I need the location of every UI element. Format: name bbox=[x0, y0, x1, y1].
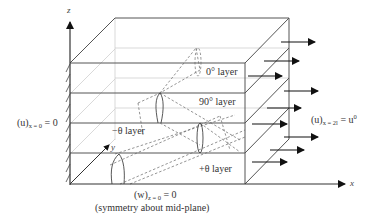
applied-displacement-arrows bbox=[248, 42, 318, 162]
laminate-box bbox=[70, 18, 289, 184]
bc-bottom-symmetry: (w)z = 0 = 0 bbox=[134, 190, 177, 202]
bc-bottom-var: (w) bbox=[134, 189, 148, 200]
layer-label-plus-theta: +θ layer bbox=[199, 164, 232, 174]
bc-right-sup: 0 bbox=[354, 113, 357, 120]
bc-right-sub: x = 2l bbox=[323, 119, 338, 126]
laminate-diagram bbox=[0, 0, 378, 222]
bc-left-sub: x = 0 bbox=[29, 122, 42, 129]
bc-bottom-note: (symmetry about mid-plane) bbox=[95, 203, 209, 213]
bc-bottom-rhs: = 0 bbox=[163, 189, 176, 200]
bc-left-clamped: (u)x = 0 = 0 bbox=[17, 118, 58, 130]
y-axis bbox=[70, 145, 109, 184]
bc-right-var: (u) bbox=[311, 114, 323, 125]
hidden-edges bbox=[70, 18, 289, 184]
bc-right-rhs: = u bbox=[340, 114, 353, 125]
bc-right-displacement: (u)x = 2l = u0 bbox=[311, 114, 357, 127]
bc-left-var: (u) bbox=[17, 117, 29, 128]
layer-label-minus-theta: −θ layer bbox=[112, 126, 145, 136]
y-axis-label: y bbox=[111, 143, 115, 152]
bc-left-rhs: = 0 bbox=[45, 117, 58, 128]
layer-section-markers bbox=[111, 93, 203, 184]
layer-label-90deg: 90° layer bbox=[199, 97, 235, 107]
x-axis-label: x bbox=[350, 179, 354, 188]
bc-bottom-sub: z = 0 bbox=[148, 194, 161, 201]
layer-label-0deg: 0° layer bbox=[206, 67, 237, 77]
z-axis-label: z bbox=[67, 6, 71, 15]
